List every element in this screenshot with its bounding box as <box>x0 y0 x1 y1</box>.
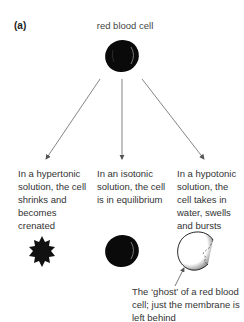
arrow-hypotonic <box>142 79 204 159</box>
ghost-note: The ‘ghost’ of a red blood cell; just th… <box>132 285 242 322</box>
arrow-hypertonic <box>46 79 100 159</box>
isotonic-description: In an isotonic solution, the cell is in … <box>97 167 167 206</box>
diagram-graphics <box>0 0 244 322</box>
crenated-cell-icon <box>29 236 55 267</box>
normal-cell-icon <box>101 230 144 272</box>
ghost-cell-icon <box>175 232 213 286</box>
red-blood-cell-icon <box>101 35 144 77</box>
hypotonic-description: In a hypotonic solution, the cell takes … <box>177 167 243 232</box>
hypertonic-description: In a hypertonic solution, the cell shrin… <box>18 167 88 232</box>
arrows <box>46 79 204 159</box>
ghost-pointer-arrow <box>175 268 184 286</box>
